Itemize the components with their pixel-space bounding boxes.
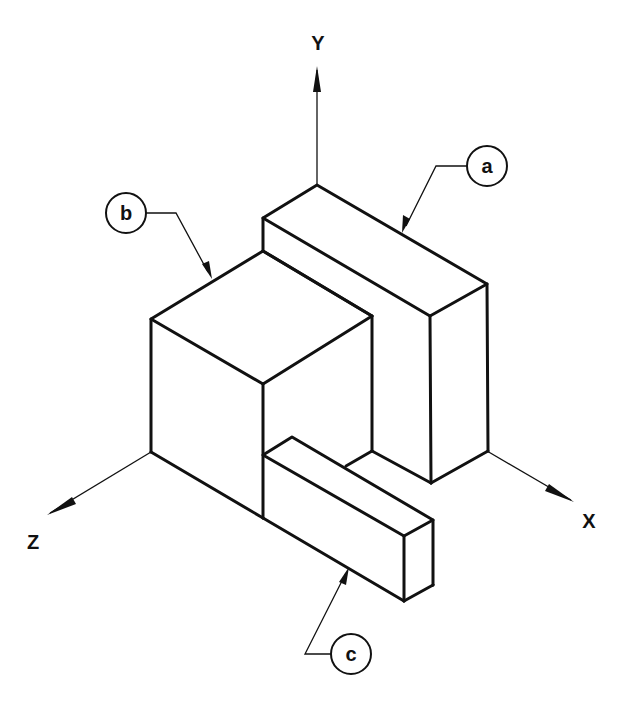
z-arrow-icon [47, 497, 76, 515]
callout-c-arrow-icon [339, 567, 349, 585]
y-arrow-icon [313, 66, 321, 92]
z-axis: Z [27, 452, 151, 553]
x-arrow-icon [545, 484, 574, 502]
x-axis-label: X [582, 510, 596, 532]
callout-a: a [402, 146, 507, 233]
callout-a-label: a [481, 155, 493, 177]
x-axis: X [487, 451, 596, 532]
callout-c: c [305, 567, 371, 674]
y-axis: Y [311, 32, 325, 185]
callout-a-arrow-icon [402, 215, 410, 233]
callout-b: b [106, 193, 212, 279]
callout-c-label: c [345, 643, 356, 665]
callout-b-arrow-icon [202, 261, 212, 279]
isometric-diagram: Y X Z [0, 0, 632, 716]
part-b-cube [151, 251, 372, 518]
callout-b-label: b [120, 202, 132, 224]
y-axis-label: Y [311, 32, 325, 54]
part-c-bar [263, 437, 433, 601]
z-axis-label: Z [27, 531, 39, 553]
